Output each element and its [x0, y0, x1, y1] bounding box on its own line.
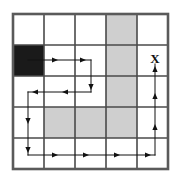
shaded-cell-3-2 — [75, 107, 106, 138]
markers-layer: X — [150, 51, 160, 66]
shaded-cell-0-3 — [106, 14, 137, 45]
shaded-cell-3-3 — [106, 107, 137, 138]
goal-x-marker: X — [150, 51, 160, 66]
gridworld-figure: X — [0, 0, 180, 187]
shaded-cell-2-3 — [106, 76, 137, 107]
gridworld-canvas: X — [0, 0, 180, 187]
shaded-cell-3-1 — [44, 107, 75, 138]
shaded-cell-1-3 — [106, 45, 137, 76]
